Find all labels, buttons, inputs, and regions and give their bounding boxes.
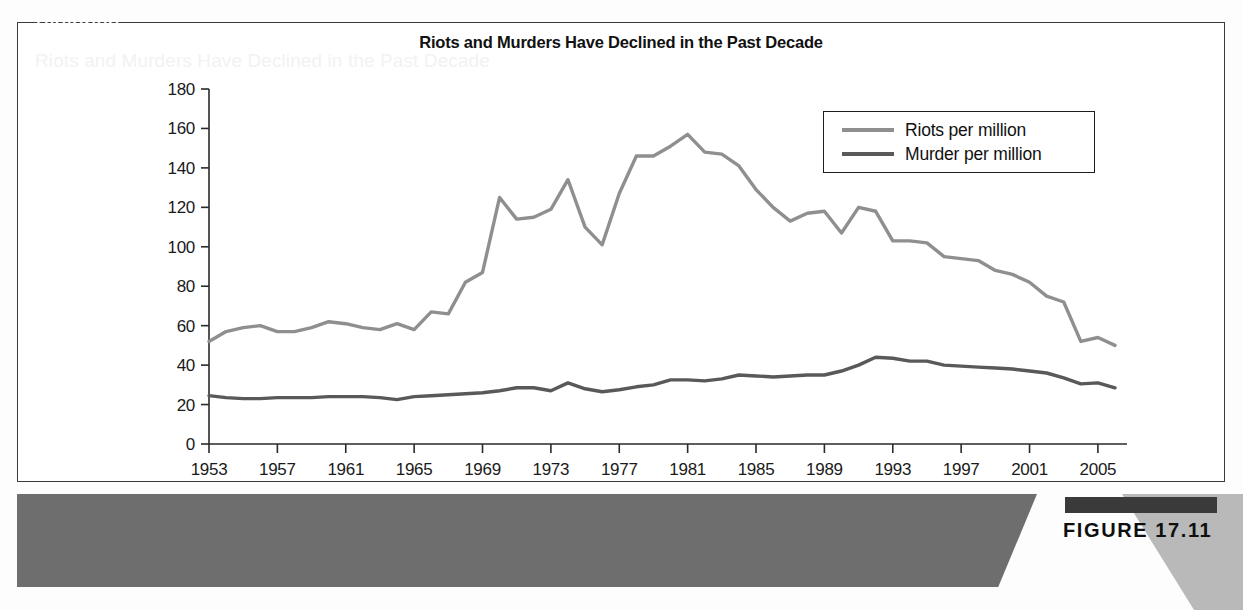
legend-label-murder: Murder per million xyxy=(905,144,1041,165)
chart-legend: Riots per million Murder per million xyxy=(823,111,1095,173)
y-tick-label: 140 xyxy=(168,159,195,178)
x-tick-label: 2001 xyxy=(1011,460,1048,479)
x-tick-label: 1953 xyxy=(191,460,228,479)
x-tick-label: 1957 xyxy=(259,460,296,479)
legend-swatch-riots xyxy=(842,128,894,133)
caption-title: Violence xyxy=(35,12,120,38)
y-tick-label: 40 xyxy=(177,356,195,375)
y-tick-label: 180 xyxy=(168,80,195,99)
series-line-murder xyxy=(209,357,1115,399)
chart-panel: Riots and Murders Have Declined in the P… xyxy=(17,22,1225,482)
legend-item-murder: Murder per million xyxy=(842,142,1094,166)
x-tick-label: 1969 xyxy=(464,460,501,479)
x-tick-label: 1977 xyxy=(601,460,638,479)
legend-label-riots: Riots per million xyxy=(905,120,1026,141)
x-tick-label: 1965 xyxy=(396,460,433,479)
y-tick-label: 0 xyxy=(186,435,195,454)
figure-number-label: FIGURE 17.11 xyxy=(1063,519,1212,542)
y-tick-label: 100 xyxy=(168,238,195,257)
figure-badge-bar xyxy=(1065,497,1217,513)
y-tick-label: 20 xyxy=(177,396,195,415)
caption-band xyxy=(17,494,1037,587)
x-tick-label: 1989 xyxy=(806,460,843,479)
x-tick-label: 1997 xyxy=(943,460,980,479)
y-tick-label: 120 xyxy=(168,198,195,217)
y-tick-label: 60 xyxy=(177,317,195,336)
legend-item-riots: Riots per million xyxy=(842,118,1094,142)
x-tick-label: 1985 xyxy=(738,460,775,479)
figure-container: Riots and Murders Have Declined in the P… xyxy=(0,0,1243,610)
x-tick-label: 1961 xyxy=(327,460,364,479)
x-tick-label: 2005 xyxy=(1080,460,1117,479)
x-tick-label: 1973 xyxy=(533,460,570,479)
y-tick-label: 160 xyxy=(168,119,195,138)
y-tick-label: 80 xyxy=(177,277,195,296)
caption-subtitle: Riots and Murders Have Declined in the P… xyxy=(35,50,490,72)
legend-swatch-murder xyxy=(842,152,894,157)
x-tick-label: 1981 xyxy=(669,460,706,479)
x-tick-label: 1993 xyxy=(874,460,911,479)
line-chart-plot: 0204060801001201401601801953195719611965… xyxy=(18,23,1226,483)
